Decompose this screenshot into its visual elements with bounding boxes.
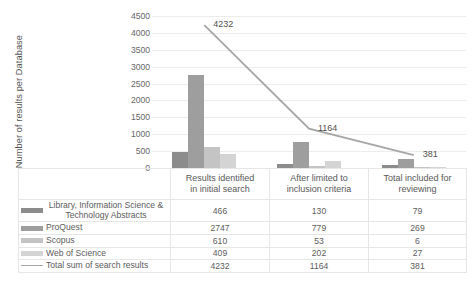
category-label-line: After limited to (270, 173, 368, 184)
y-axis-tick: 2500 (131, 79, 150, 89)
table-cell-value: 610 (171, 234, 270, 247)
category-label-line: in initial search (171, 184, 269, 195)
table-cell-value: 130 (270, 200, 369, 222)
table-cell-value: 53 (270, 234, 369, 247)
table-category-row: Results identifiedin initial searchAfter… (19, 169, 467, 200)
legend-label-line: Web of Science (46, 249, 166, 259)
legend-label-line: ProQuest (46, 223, 166, 233)
y-axis-tick: 4500 (131, 11, 150, 21)
line-data-label: 1164 (318, 123, 337, 133)
legend-entry[interactable]: Scopus (19, 234, 171, 247)
table-row: Total sum of search results42321164381 (19, 260, 467, 273)
x-axis-category-label: Results identifiedin initial search (171, 169, 270, 200)
y-axis-tick: 3000 (131, 62, 150, 72)
legend-entry[interactable]: Total sum of search results (19, 260, 171, 273)
table-cell-value: 27 (369, 247, 467, 260)
data-table: Results identifiedin initial searchAfter… (18, 168, 467, 273)
legend-label: Scopus (46, 236, 168, 246)
legend-entry[interactable]: ProQuest (19, 222, 171, 235)
table-corner-cell (19, 169, 171, 200)
table-cell-value: 79 (369, 200, 467, 222)
legend-color-swatch (21, 208, 43, 213)
category-label-line: inclusion criteria (270, 184, 368, 195)
table-row: Scopus610536 (19, 234, 467, 247)
line-data-label: 4232 (213, 19, 233, 29)
table-row: ProQuest2747779269 (19, 222, 467, 235)
table-row: Library, Information Science &Technology… (19, 200, 467, 222)
category-label-line: reviewing (369, 184, 466, 195)
line-data-label: 381 (423, 149, 438, 159)
table-row: Web of Science40920227 (19, 247, 467, 260)
legend-label-line: Scopus (46, 236, 166, 246)
legend-color-swatch (21, 226, 43, 231)
total-line-series (152, 16, 466, 168)
table-cell-value: 4232 (171, 260, 270, 273)
legend-label: Total sum of search results (46, 261, 168, 271)
legend-label-line: Total sum of search results (46, 261, 166, 271)
legend-entry[interactable]: Web of Science (19, 247, 171, 260)
category-label-line: Results identified (171, 173, 269, 184)
y-axis-tick: 500 (136, 146, 150, 156)
table-cell-value: 409 (171, 247, 270, 260)
table-cell-value: 1164 (270, 260, 369, 273)
x-axis-category-label: After limited toinclusion criteria (270, 169, 369, 200)
table-cell-value: 779 (270, 222, 369, 235)
table-cell-value: 6 (369, 234, 467, 247)
x-axis-category-label: Total included forreviewing (369, 169, 467, 200)
y-axis-tick: 1000 (131, 129, 150, 139)
y-axis-tick: 1500 (131, 112, 150, 122)
legend-color-swatch (21, 251, 43, 256)
y-axis-tick: 2000 (131, 95, 150, 105)
legend-line-swatch (21, 265, 43, 266)
legend-label: Library, Information Science &Technology… (46, 201, 168, 220)
legend-color-swatch (21, 238, 43, 243)
table-cell-value: 381 (369, 260, 467, 273)
table-cell-value: 2747 (171, 222, 270, 235)
y-axis-tick: 3500 (131, 45, 150, 55)
total-line-path (204, 25, 413, 155)
y-axis-tick: 4000 (131, 28, 150, 38)
table-cell-value: 269 (369, 222, 467, 235)
table-cell-value: 202 (270, 247, 369, 260)
legend-entry[interactable]: Library, Information Science &Technology… (19, 200, 171, 222)
y-axis-title-label: Number of results per Database (14, 35, 24, 168)
legend-label: ProQuest (46, 223, 168, 233)
chart-figure: Number of results per Database 050010001… (0, 0, 474, 285)
legend-label: Web of Science (46, 249, 168, 259)
y-axis-title: Number of results per Database (8, 12, 30, 192)
legend-label-line: Technology Abstracts (46, 211, 166, 221)
y-axis-tick-labels: 050010001500200025003000350040004500 (120, 16, 150, 168)
category-label-line: Total included for (369, 173, 466, 184)
table-cell-value: 466 (171, 200, 270, 222)
plot-area: 42321164381 (152, 16, 466, 168)
